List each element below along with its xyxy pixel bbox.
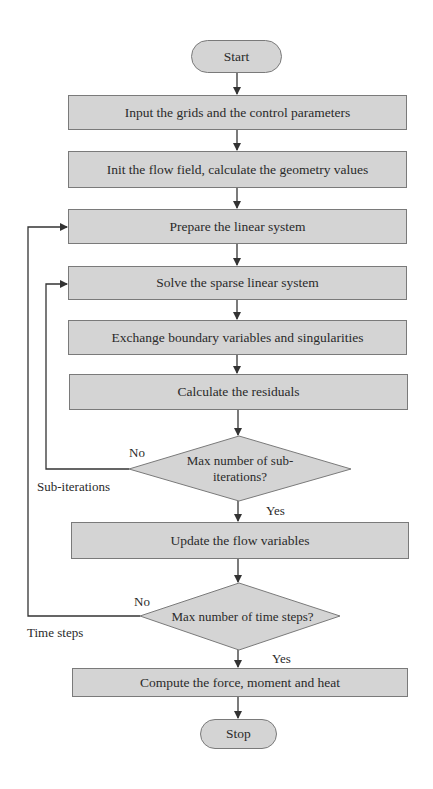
- step-label: Input the grids and the control paramete…: [125, 105, 351, 121]
- step-calculate-residuals: Calculate the residuals: [69, 374, 408, 410]
- step-exchange-boundary: Exchange boundary variables and singular…: [68, 320, 407, 355]
- step-init-flow-field: Init the flow field, calculate the geome…: [68, 151, 407, 188]
- start-terminator: Start: [191, 40, 282, 73]
- step-label: Exchange boundary variables and singular…: [112, 330, 364, 346]
- step-prepare-linear-system: Prepare the linear system: [68, 209, 407, 244]
- decision-line-2: iterations?: [213, 469, 267, 485]
- decision-text-time-steps: Max number of time steps?: [150, 608, 335, 626]
- loop-label-time-steps: Time steps: [27, 625, 83, 641]
- stop-terminator: Stop: [200, 719, 277, 749]
- step-label: Prepare the linear system: [169, 219, 305, 235]
- step-update-flow-variables: Update the flow variables: [71, 522, 409, 559]
- step-solve-sparse-system: Solve the sparse linear system: [68, 266, 407, 300]
- no-label-sub-iterations: No: [129, 445, 145, 461]
- step-label: Solve the sparse linear system: [156, 275, 319, 291]
- step-label: Compute the force, moment and heat: [140, 675, 340, 691]
- decision-label: Max number of time steps?: [171, 609, 313, 625]
- step-label: Update the flow variables: [170, 533, 309, 549]
- step-label: Init the flow field, calculate the geome…: [107, 162, 369, 178]
- yes-label-sub-iterations: Yes: [266, 503, 285, 519]
- stop-label: Stop: [226, 726, 251, 742]
- start-label: Start: [224, 49, 250, 65]
- step-compute-force: Compute the force, moment and heat: [72, 668, 408, 697]
- yes-label-time-steps: Yes: [272, 651, 291, 667]
- decision-text-sub-iterations: Max number of sub- iterations?: [160, 452, 320, 486]
- decision-line-1: Max number of sub-: [187, 453, 294, 469]
- no-label-time-steps: No: [134, 594, 150, 610]
- loop-label-sub-iterations: Sub-iterations: [37, 479, 110, 495]
- step-input-grids: Input the grids and the control paramete…: [68, 95, 407, 130]
- step-label: Calculate the residuals: [177, 384, 299, 400]
